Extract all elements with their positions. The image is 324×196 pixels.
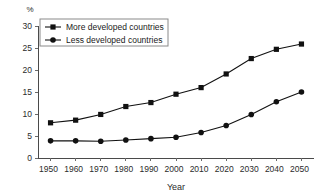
x-tick-label: 1950 [39,164,58,174]
chart-canvas: 051015202530%195019601970198019902000201… [0,0,324,196]
y-tick-label: 10 [23,109,33,119]
y-tick-label: 30 [23,21,33,31]
data-point-circle-marker [173,135,179,141]
x-tick-label: 1960 [64,164,83,174]
x-tick-label: 2010 [190,164,209,174]
data-point-circle-marker [198,130,204,136]
x-tick-label: 2000 [165,164,184,174]
y-tick-label: 15 [23,87,33,97]
data-point-square-marker [249,56,254,61]
square-marker-icon [50,24,55,29]
data-point-circle-marker [248,112,254,118]
legend-label: Less developed countries [66,35,162,45]
data-point-square-marker [73,118,78,123]
data-point-square-marker [224,71,229,76]
data-point-square-marker [148,100,153,105]
x-axis-title: Year [167,182,185,192]
y-axis-unit-label: % [26,5,33,14]
x-tick-label: 2050 [290,164,309,174]
circle-marker-icon [50,37,56,43]
data-point-square-marker [48,120,53,125]
data-point-square-marker [274,47,279,52]
data-point-circle-marker [98,138,104,144]
y-tick-label: 5 [27,131,32,141]
line-chart: 051015202530%195019601970198019902000201… [0,0,324,196]
series-line-2 [51,92,302,141]
data-point-square-marker [299,41,304,46]
y-tick-label: 20 [23,65,33,75]
data-point-circle-marker [148,136,154,142]
data-point-circle-marker [123,137,129,143]
data-point-circle-marker [223,123,229,129]
x-tick-label: 2020 [215,164,234,174]
x-tick-label: 1980 [114,164,133,174]
x-tick-label: 1970 [89,164,108,174]
legend-label: More developed countries [66,22,164,32]
data-point-square-marker [123,104,128,109]
y-tick-label: 0 [27,153,32,163]
y-tick-label: 25 [23,43,33,53]
data-point-circle-marker [48,138,54,144]
x-tick-label: 1990 [139,164,158,174]
data-point-square-marker [173,92,178,97]
data-point-square-marker [98,112,103,117]
x-tick-label: 2030 [240,164,259,174]
data-point-circle-marker [274,99,280,105]
x-tick-label: 2040 [265,164,284,174]
series-line-1 [51,44,302,123]
data-point-square-marker [198,85,203,90]
data-point-circle-marker [299,89,305,95]
data-point-circle-marker [73,138,79,144]
